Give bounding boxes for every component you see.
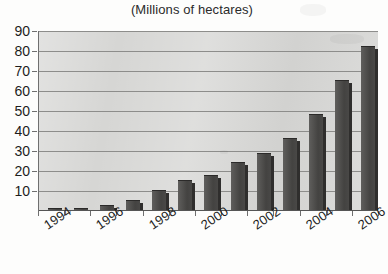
x-axis-labels: 1994199619982000200220042006 [0, 214, 384, 274]
bar-face [309, 114, 323, 211]
y-axis-tick-90 [32, 31, 37, 32]
y-axis-label-70: 70 [14, 64, 30, 78]
bar-shadow [375, 49, 378, 211]
y-axis-tick-30 [32, 151, 37, 152]
bar-face [283, 138, 297, 211]
bar-2004 [309, 115, 326, 211]
bar-shadow [349, 83, 352, 211]
bar-2002 [257, 154, 274, 211]
bar-shadow [297, 141, 300, 211]
y-axis-tick-70 [32, 71, 37, 72]
bar-1999 [178, 181, 195, 211]
bar-face [335, 80, 349, 211]
y-axis-label-20: 20 [14, 164, 30, 178]
bar-face [178, 180, 192, 211]
y-axis-label-10: 10 [14, 184, 30, 198]
bar-face [361, 46, 375, 211]
bar-2001 [231, 163, 248, 211]
bar-2006 [361, 47, 378, 211]
y-axis-label-40: 40 [14, 124, 30, 138]
y-axis-label-60: 60 [14, 84, 30, 98]
bar-2005 [335, 81, 352, 211]
chart-title: (Millions of hectares) [0, 2, 384, 17]
bar-series [39, 31, 378, 211]
bar-shadow [192, 183, 195, 211]
y-axis-label-50: 50 [14, 104, 30, 118]
y-axis-label-90: 90 [14, 24, 30, 38]
bar-shadow [323, 117, 326, 211]
y-axis: 102030405060708090 [0, 31, 34, 211]
bar-face [257, 153, 271, 211]
y-axis-tick-50 [32, 111, 37, 112]
y-axis-label-30: 30 [14, 144, 30, 158]
bar-face [231, 162, 245, 211]
y-axis-tick-40 [32, 131, 37, 132]
bar-2003 [283, 139, 300, 211]
y-axis-tick-10 [32, 191, 37, 192]
bar-face [204, 175, 218, 211]
y-axis-tick-20 [32, 171, 37, 172]
plot-area [38, 31, 378, 211]
bar-shadow [245, 165, 248, 211]
y-axis-tick-80 [32, 51, 37, 52]
y-axis-label-80: 80 [14, 44, 30, 58]
y-axis-tick-60 [32, 91, 37, 92]
